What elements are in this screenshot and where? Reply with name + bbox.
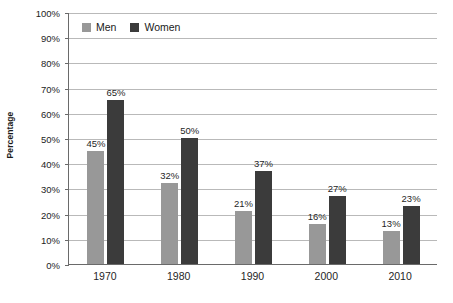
bar-value-label: 16% bbox=[308, 211, 327, 222]
y-axis-tick-label: 100% bbox=[36, 8, 60, 19]
bar-men-1990[interactable]: 21% bbox=[235, 211, 252, 264]
x-axis-tick-label: 1970 bbox=[93, 270, 116, 282]
legend-label-men: Men bbox=[96, 21, 116, 33]
bar-value-label: 21% bbox=[234, 198, 253, 209]
bars-layer: 45%65%32%50%21%37%16%27%13%23% bbox=[69, 13, 437, 264]
y-axis-title-label: Percentage bbox=[5, 112, 15, 159]
bar-men-1980[interactable]: 32% bbox=[161, 183, 178, 264]
y-axis-tick-label: 10% bbox=[41, 234, 60, 245]
bar-value-label: 37% bbox=[254, 158, 273, 169]
x-axis-tick-label: 2010 bbox=[388, 270, 411, 282]
bar-value-label: 32% bbox=[160, 170, 179, 181]
bar-value-label: 50% bbox=[180, 125, 199, 136]
y-axis-tick-label: 80% bbox=[41, 58, 60, 69]
bar-value-label: 45% bbox=[86, 138, 105, 149]
y-axis-tick-label: 20% bbox=[41, 209, 60, 220]
y-axis-tick-label: 90% bbox=[41, 33, 60, 44]
x-axis-tick-label: 1990 bbox=[241, 270, 264, 282]
chart-legend: Men Women bbox=[82, 21, 180, 33]
bar-group: 13%23% bbox=[383, 13, 420, 264]
bar-women-1980[interactable]: 50% bbox=[181, 138, 198, 264]
bar-group: 21%37% bbox=[235, 13, 272, 264]
y-axis-tick-label: 70% bbox=[41, 83, 60, 94]
y-axis-tick-label: 40% bbox=[41, 159, 60, 170]
bar-women-2010[interactable]: 23% bbox=[403, 206, 420, 264]
bar-chart: Percentage 100%90%80%70%60%50%40%30%20%1… bbox=[0, 0, 453, 303]
bar-men-1970[interactable]: 45% bbox=[87, 151, 104, 264]
legend-swatch-women-icon bbox=[130, 23, 139, 32]
bar-women-1990[interactable]: 37% bbox=[255, 171, 272, 264]
y-axis-tick-label: 0% bbox=[46, 260, 60, 271]
y-axis-tick-label: 30% bbox=[41, 184, 60, 195]
legend-item-women[interactable]: Women bbox=[130, 21, 180, 33]
bar-group: 32%50% bbox=[161, 13, 198, 264]
bar-women-1970[interactable]: 65% bbox=[107, 100, 124, 264]
y-axis-tick-labels: 100%90%80%70%60%50%40%30%20%10%0% bbox=[20, 13, 64, 265]
bar-men-2000[interactable]: 16% bbox=[309, 224, 326, 264]
y-axis-title: Percentage bbox=[0, 0, 20, 270]
legend-item-men[interactable]: Men bbox=[82, 21, 116, 33]
plot-area: 45%65%32%50%21%37%16%27%13%23% bbox=[68, 13, 437, 265]
bar-value-label: 27% bbox=[328, 183, 347, 194]
bar-group: 45%65% bbox=[87, 13, 124, 264]
bar-group: 16%27% bbox=[309, 13, 346, 264]
x-axis-tick-labels: 19701980199020002010 bbox=[68, 268, 437, 290]
bar-value-label: 13% bbox=[382, 218, 401, 229]
y-axis-tickmark bbox=[65, 265, 69, 266]
y-axis-tick-label: 60% bbox=[41, 108, 60, 119]
legend-swatch-men-icon bbox=[82, 23, 91, 32]
legend-label-women: Women bbox=[144, 21, 180, 33]
x-axis-tick-label: 2000 bbox=[315, 270, 338, 282]
y-axis-tick-label: 50% bbox=[41, 134, 60, 145]
bar-value-label: 23% bbox=[402, 193, 421, 204]
bar-men-2010[interactable]: 13% bbox=[383, 231, 400, 264]
bar-value-label: 65% bbox=[106, 87, 125, 98]
x-axis-tick-label: 1980 bbox=[167, 270, 190, 282]
bar-women-2000[interactable]: 27% bbox=[329, 196, 346, 264]
